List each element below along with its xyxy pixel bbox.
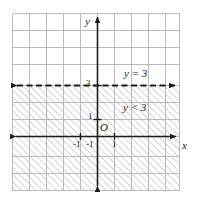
tick-label-x-1: 1 [112, 140, 117, 149]
tick-label-y-neg1: -1 [86, 140, 94, 149]
region-inequality-label: y < 3 [123, 102, 146, 113]
region-y-less-than-3 [13, 86, 180, 191]
tick-label-y-3: 3 [86, 79, 91, 88]
graph-canvas [0, 0, 199, 204]
origin-label: O [100, 122, 108, 133]
coordinate-plane-figure: y x O 3 1 -1 1 -1 y = 3 y < 3 [0, 0, 199, 204]
tick-label-y-1: 1 [88, 112, 93, 121]
tick-label-x-neg1: -1 [73, 140, 81, 149]
y-axis-label: y [85, 16, 90, 27]
x-axis-label: x [182, 140, 187, 151]
line-equation-label: y = 3 [124, 68, 147, 79]
